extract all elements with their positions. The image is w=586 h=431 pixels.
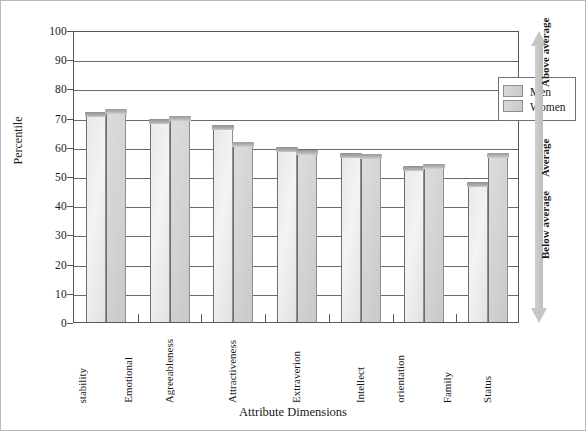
y-axis-tick-label: 100 [49,25,67,37]
bar-group [329,32,393,322]
bar-men [341,153,361,322]
bar-women [488,153,508,322]
plot-area: Men Women [73,31,519,323]
y-axis: Percentile 1009080706050403020100 [1,1,73,353]
bar-women [233,142,253,322]
bar-group [201,32,265,322]
bar-group [265,32,329,322]
bar-men [213,125,233,322]
x-axis-title: Attribute Dimensions [1,405,585,420]
bar-women [424,164,444,322]
y-axis-tick-label: 80 [55,83,67,95]
bar-women [361,154,381,322]
bar-women [297,150,317,322]
y-axis-tick-mark [67,323,73,324]
y-axis-tick-label: 40 [55,200,67,212]
bar-women [170,116,190,322]
bar-men [150,119,170,322]
y-axis-tick-label: 70 [55,113,67,125]
bar-group [393,32,457,322]
bar-men [404,166,424,322]
y-axis-tick-label: 30 [55,229,67,241]
y-axis-title: Percentile [11,61,26,221]
bar-group [456,32,520,322]
y-axis-tick-label: 50 [55,171,67,183]
bar-group [74,32,138,322]
category-separator [201,314,202,322]
category-separator [393,314,394,322]
bar-men [277,147,297,322]
bar-swatch-icon [503,84,525,114]
category-separator [456,314,457,322]
x-axis-tick-labels: EmotionalstabilityAgreeablenessAttractiv… [73,325,519,403]
x-axis-tick-label: Status [441,376,533,403]
bar-women [106,109,126,322]
bar-group [138,32,202,322]
y-axis-tick-label: 20 [55,259,67,271]
category-separator [265,314,266,322]
chart-figure: Percentile 1009080706050403020100 Men Wo… [0,0,586,431]
y-axis-tick-label: 60 [55,142,67,154]
annotation-below-average: Below average [539,139,551,259]
bar-men [468,182,488,322]
bar-men [86,112,106,322]
y-axis-tick-label: 10 [55,288,67,300]
bars-layer [74,32,518,322]
performance-scale-annotation: Above average Average Below average [525,31,583,323]
category-separator [329,314,330,322]
y-axis-tick-label: 90 [55,54,67,66]
category-separator [138,314,139,322]
